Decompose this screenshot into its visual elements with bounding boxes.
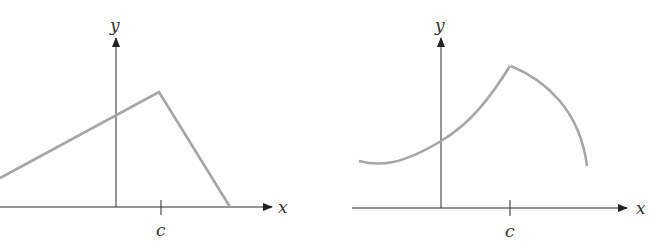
right-function-right-branch xyxy=(511,66,587,166)
left-graph: x y c xyxy=(0,15,288,240)
left-function-curve xyxy=(0,92,230,207)
left-y-label: y xyxy=(109,15,120,35)
left-c-label: c xyxy=(156,220,166,240)
right-function-left-branch xyxy=(359,66,510,164)
left-x-label: x xyxy=(278,197,288,217)
right-graph: x y c xyxy=(352,15,646,241)
diagram-canvas: x y c x y c xyxy=(0,0,649,243)
right-c-label: c xyxy=(505,221,515,241)
right-x-label: x xyxy=(636,198,646,218)
right-y-label: y xyxy=(434,15,445,35)
